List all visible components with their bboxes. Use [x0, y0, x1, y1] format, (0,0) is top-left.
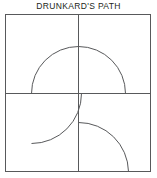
- quilt-block-page: DRUNKARD'S PATH: [0, 0, 157, 178]
- quilt-block-figure: [0, 12, 157, 178]
- page-title: DRUNKARD'S PATH: [0, 1, 157, 12]
- quilt-block-drawing: [0, 12, 157, 178]
